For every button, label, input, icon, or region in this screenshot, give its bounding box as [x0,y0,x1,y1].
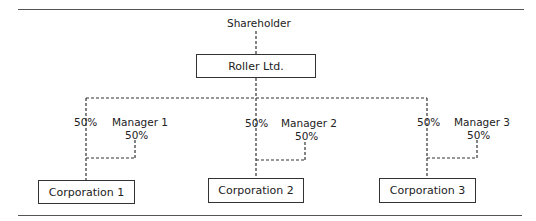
corporation-1-label: Corporation 1 [49,186,124,199]
corporation-2-box: Corporation 2 [208,178,304,203]
branch2-parent-share: 50% [245,117,268,129]
branch3-manager-share: 50% [467,129,490,141]
branch1-manager-label: Manager 1 [112,116,168,128]
corporation-3-box: Corporation 3 [379,178,476,203]
corporation-1-box: Corporation 1 [38,180,135,204]
branch3-parent-share: 50% [417,116,440,128]
corporation-3-label: Corporation 3 [390,184,465,197]
corporation-2-label: Corporation 2 [218,184,293,197]
shareholder-label: Shareholder [227,17,291,29]
roller-ltd-label: Roller Ltd. [228,60,284,73]
branch1-parent-share: 50% [74,116,97,128]
branch2-manager-share: 50% [295,130,318,142]
roller-ltd-box: Roller Ltd. [196,54,316,78]
branch2-manager-label: Manager 2 [281,117,337,129]
branch1-manager-share: 50% [125,129,148,141]
branch3-manager-label: Manager 3 [454,116,510,128]
